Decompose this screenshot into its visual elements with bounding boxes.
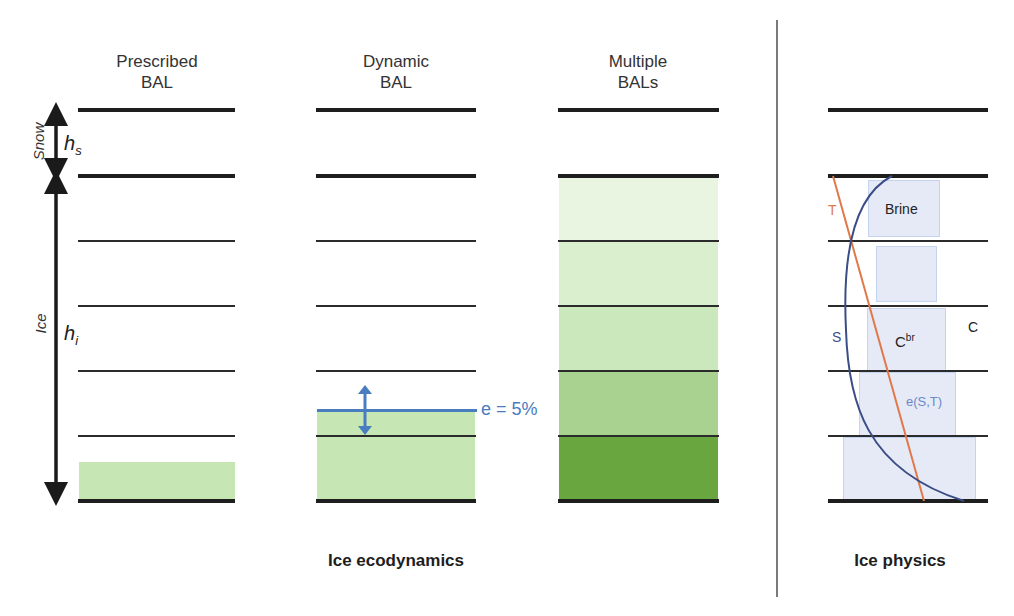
layer-line bbox=[78, 435, 235, 437]
layer-line bbox=[558, 370, 719, 372]
snow-surface-line bbox=[828, 108, 988, 112]
section-label-physics: Ice physics bbox=[780, 551, 1014, 571]
snow-label: Snow bbox=[30, 123, 47, 161]
salinity-label: S bbox=[832, 329, 841, 345]
layer-line bbox=[558, 305, 719, 307]
ice-surface-line bbox=[316, 174, 476, 178]
temperature-label: T bbox=[828, 202, 837, 218]
bulk-concentration-label: C bbox=[968, 319, 978, 335]
column-title-prescribed-bal: Prescribed BAL bbox=[57, 51, 257, 93]
snow-thickness-symbol: hs bbox=[64, 132, 82, 158]
ice-surface-line bbox=[78, 174, 235, 178]
bal-top-line bbox=[317, 409, 477, 412]
layer-line bbox=[558, 240, 719, 242]
layer-line bbox=[316, 435, 476, 437]
layer-line bbox=[316, 370, 476, 372]
layer-line bbox=[558, 435, 719, 437]
column-title-multiple-bals: Multiple BALs bbox=[538, 51, 738, 93]
bal-layer-5 bbox=[559, 437, 718, 500]
snow-surface-line bbox=[316, 108, 476, 112]
layer-line bbox=[78, 305, 235, 307]
ice-bottom-line bbox=[558, 499, 719, 503]
snow-surface-line bbox=[78, 108, 235, 112]
bal-fraction-annotation: e = 5% bbox=[481, 399, 538, 420]
bal-layer-3 bbox=[559, 307, 718, 371]
ice-bottom-line bbox=[316, 499, 476, 503]
section-label-ecodynamics: Ice ecodynamics bbox=[276, 551, 516, 571]
column-title-dynamic-bal: Dynamic BAL bbox=[296, 51, 496, 93]
bal-layer-2 bbox=[559, 242, 718, 306]
brine-concentration-label: Cbr bbox=[895, 332, 915, 350]
layer-line bbox=[316, 305, 476, 307]
ice-surface-line bbox=[558, 174, 719, 178]
ice-label: Ice bbox=[32, 313, 49, 333]
dynamic-bal-fill bbox=[317, 410, 475, 500]
layer-line bbox=[78, 240, 235, 242]
brine-fraction-label: e(S,T) bbox=[906, 394, 942, 409]
ice-bottom-line bbox=[78, 499, 235, 503]
bal-layer-4 bbox=[559, 372, 718, 436]
thickness-arrows bbox=[40, 100, 80, 510]
layer-line bbox=[316, 240, 476, 242]
bal-movement-arrow-icon bbox=[355, 384, 375, 436]
bal-layer-1 bbox=[559, 177, 718, 241]
brine-label: Brine bbox=[885, 201, 918, 217]
section-divider bbox=[776, 20, 778, 597]
prescribed-bal-fill bbox=[79, 462, 235, 500]
snow-surface-line bbox=[558, 108, 719, 112]
ice-thickness-symbol: hi bbox=[64, 322, 78, 348]
layer-line bbox=[78, 370, 235, 372]
